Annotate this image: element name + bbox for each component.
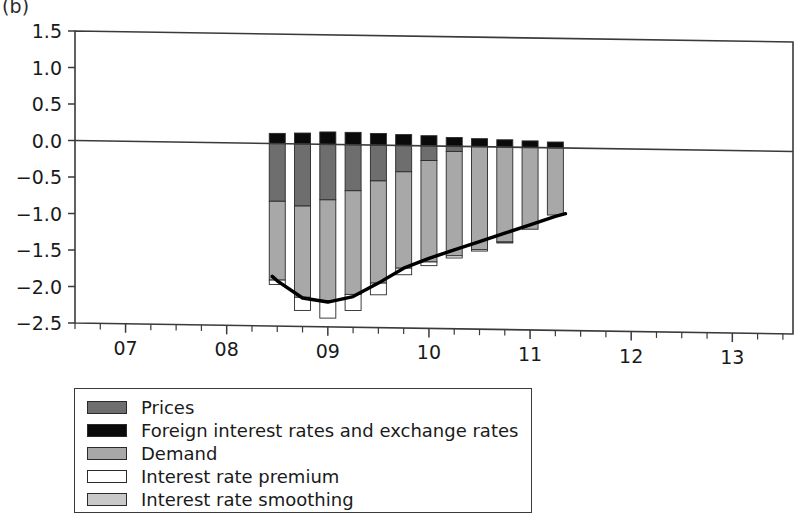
bar-segment [269, 144, 285, 202]
bar-segment [295, 144, 311, 206]
legend-item: Prices [75, 396, 531, 419]
x-tick-label: 08 [215, 338, 239, 360]
bar-segment [396, 172, 412, 268]
legend-label: Prices [141, 398, 194, 418]
legend-label: Interest rate premium [141, 467, 339, 487]
bar-segment [295, 133, 311, 144]
y-tick-label: −1.5 [16, 239, 62, 261]
bar-segment [472, 139, 488, 147]
bar-segment [497, 140, 513, 147]
stacked-bars [269, 132, 563, 318]
legend-swatch [87, 401, 127, 414]
bar-segment [396, 135, 412, 146]
y-axis-tick-labels: 1.51.00.50.0−0.5−1.0−1.5−2.0−2.5 [16, 20, 62, 334]
legend-swatch [87, 470, 127, 483]
x-tick-label: 07 [113, 337, 137, 359]
bar-segment [269, 133, 285, 143]
bar-segment [370, 145, 386, 181]
legend-label: Foreign interest rates and exchange rate… [141, 421, 518, 441]
y-tick-label: −1.0 [16, 203, 62, 225]
x-tick-label: 12 [619, 345, 643, 367]
y-tick-label: −2.0 [16, 276, 62, 298]
y-tick-label: −2.5 [16, 312, 62, 334]
bar-segment [446, 138, 462, 147]
bar-segment [497, 242, 513, 243]
bar-segment [320, 144, 336, 199]
bar-segment [320, 200, 336, 301]
bar-segment [446, 256, 462, 258]
chart-legend: PricesForeign interest rates and exchang… [74, 388, 532, 513]
x-tick-label: 09 [316, 340, 340, 362]
legend-swatch [87, 447, 127, 460]
bar-segment [421, 146, 437, 161]
bar-segment [497, 147, 513, 242]
legend-item: Foreign interest rates and exchange rate… [75, 419, 531, 442]
bar-segment [421, 136, 437, 146]
legend-swatch [87, 424, 127, 437]
bar-segment [472, 147, 488, 250]
bar-segment [472, 250, 488, 251]
bar-segment [370, 181, 386, 283]
bar-segment [345, 191, 361, 295]
bar-segment [295, 206, 311, 297]
y-tick-label: 1.5 [32, 20, 62, 42]
bar-segment [345, 145, 361, 191]
legend-label: Interest rate smoothing [141, 490, 354, 510]
x-axis-tick-labels: 07080910111213 [113, 337, 744, 368]
bar-segment [522, 147, 538, 229]
bar-segment [421, 262, 437, 266]
y-tick-label: 0.0 [32, 130, 62, 152]
legend-item: Demand [75, 442, 531, 465]
legend-swatch [87, 493, 127, 506]
total-line [272, 214, 565, 302]
y-tick-label: −0.5 [16, 166, 62, 188]
x-tick-label: 11 [518, 343, 542, 365]
bar-segment [446, 151, 462, 255]
bar-segment [345, 132, 361, 144]
legend-label: Demand [141, 444, 217, 464]
x-tick-label: 10 [417, 341, 441, 363]
bar-segment [320, 132, 336, 144]
bar-segment [370, 133, 386, 145]
bar-segment [547, 148, 563, 215]
legend-item: Interest rate smoothing [75, 488, 531, 511]
y-tick-label: 1.0 [32, 57, 62, 79]
bar-segment [396, 146, 412, 172]
y-tick-label: 0.5 [32, 93, 62, 115]
bar-segment [421, 161, 437, 262]
legend-item: Interest rate premium [75, 465, 531, 488]
x-tick-label: 13 [720, 346, 744, 368]
total-line-path [272, 214, 565, 302]
bar-segment [522, 141, 538, 148]
bar-segment [269, 201, 285, 280]
